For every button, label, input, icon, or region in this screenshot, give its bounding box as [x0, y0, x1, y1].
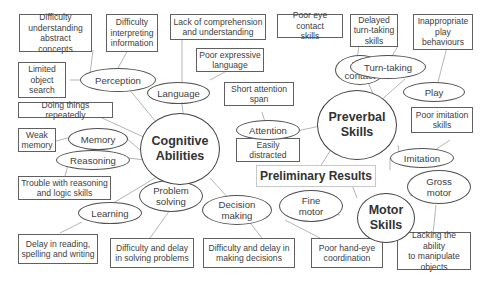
box-reading-delay: Delay in reading, spelling and writing	[18, 234, 98, 264]
node-problem-solving: Problem solving	[139, 180, 203, 212]
box-solving-delay: Difficulty and delay in solving problems	[110, 238, 194, 268]
box-decisions-delay: Difficulty and delay in making decisions	[203, 238, 295, 268]
box-inappropriate-play: Inappropriate play behaviours	[413, 14, 473, 50]
box-doing-repeatedly: Doing things repeatedly	[18, 102, 113, 118]
node-reasoning: Reasoning	[56, 150, 130, 170]
box-poor-eye-contact: Poor eye contact skills	[277, 14, 343, 38]
box-comprehension: Lack of comprehension and understanding	[170, 14, 266, 40]
box-manipulate-objects: Lacking the ability to manipulate object…	[397, 232, 471, 270]
node-fine-motor: Fine motor	[279, 190, 343, 222]
box-interpreting-information: Difficulty interpreting information	[106, 14, 158, 52]
hub-motor-skills: Motor Skills	[357, 193, 415, 243]
box-short-attention: Short attention span	[224, 82, 294, 106]
box-hand-eye: Poor hand-eye coordination	[311, 238, 383, 268]
box-reasoning-trouble: Trouble with reasoning and logic skills	[18, 176, 111, 200]
node-learning: Learning	[78, 202, 142, 224]
box-abstract-concepts: Difficulty understanding abstract concep…	[19, 14, 92, 52]
node-language: Language	[147, 82, 210, 104]
box-easily-distracted: Easily distracted	[236, 138, 300, 162]
node-imitation: Imitation	[390, 148, 454, 168]
node-decision-making: Decision making	[202, 195, 272, 225]
node-memory: Memory	[68, 128, 128, 150]
box-expressive-language: Poor expressive language	[196, 48, 264, 72]
hub-preverbal-skills: Preverbal Skills	[317, 90, 397, 160]
node-attention: Attention	[236, 120, 300, 140]
hub-cognitive-abilities: Cognitive Abilities	[140, 113, 220, 185]
box-object-search: Limited object search	[18, 62, 66, 98]
node-perception: Perception	[80, 68, 156, 92]
box-delayed-turn-taking: Delayed turn-taking skills	[350, 14, 398, 47]
node-gross-motor: Gross motor	[407, 170, 471, 204]
node-play: Play	[403, 82, 465, 102]
box-poor-imitation: Poor imitation skills	[411, 107, 473, 133]
preliminary-results-title: Preliminary Results	[256, 165, 376, 187]
node-turn-taking: Turn-taking	[350, 55, 426, 79]
box-weak-memory: Weak memory	[18, 128, 56, 152]
